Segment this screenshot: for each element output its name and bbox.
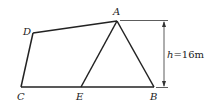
label-B: B (149, 91, 157, 102)
height-label: h=16m (167, 49, 205, 60)
segment-AE (81, 21, 117, 87)
height-value: =16m (173, 49, 204, 60)
label-A: A (112, 6, 120, 17)
geometry-figure: A B C D E h=16m (0, 0, 209, 104)
arrow-up-icon (162, 21, 166, 27)
segment-AD (33, 21, 117, 33)
label-C: C (17, 91, 25, 102)
label-D: D (22, 26, 31, 37)
arrow-down-icon (162, 81, 166, 87)
segment-DC (21, 33, 33, 87)
segment-AB (117, 21, 154, 87)
label-E: E (75, 91, 84, 102)
